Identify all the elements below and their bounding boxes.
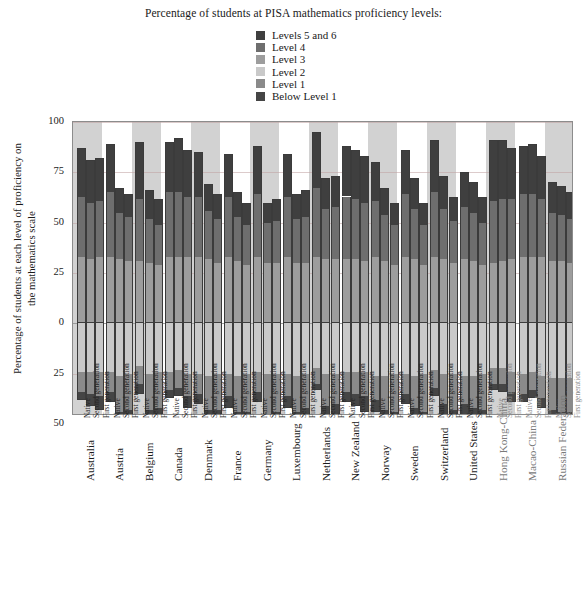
segment-levels-5-6 — [77, 148, 86, 196]
x-axis-sublabel: Native — [319, 398, 328, 418]
segment-levels-5-6 — [253, 146, 262, 194]
segment-level-3 — [106, 257, 115, 323]
legend-swatch — [256, 55, 265, 64]
x-axis-country-label: Belgium — [143, 442, 155, 481]
segment-level-4 — [548, 213, 557, 261]
segment-levels-5-6 — [321, 178, 330, 208]
segment-level-3 — [548, 261, 557, 323]
segment-level-4 — [204, 211, 213, 259]
legend-label: Below Level 1 — [272, 90, 337, 102]
x-axis-sublabel: Native — [378, 398, 387, 418]
segment-level-4 — [410, 209, 419, 259]
legend-title: Percentage of students at PISA mathemati… — [0, 7, 587, 19]
segment-level-3 — [430, 257, 439, 323]
segment-level-2 — [77, 323, 86, 371]
segment-levels-5-6 — [548, 182, 557, 212]
segment-level-3 — [469, 261, 478, 323]
y-axis-title: Percentage of students at each level of … — [11, 139, 38, 379]
segment-levels-5-6 — [557, 186, 566, 214]
segment-level-4 — [557, 215, 566, 261]
x-axis-sublabel: First generation — [190, 371, 199, 418]
segment-level-3 — [194, 257, 203, 323]
x-axis-country-label: Germany — [261, 439, 273, 481]
x-axis-sublabel: First generation — [278, 371, 287, 418]
legend-swatch — [256, 31, 265, 40]
segment-levels-5-6 — [566, 192, 573, 218]
x-axis-sublabel: Second generation — [92, 363, 101, 418]
x-axis-sublabel: Second generation — [534, 363, 543, 418]
x-axis-sublabel: Second generation — [269, 363, 278, 418]
legend-swatch — [256, 79, 265, 88]
x-axis-sublabel: First generation — [544, 371, 553, 418]
x-axis-country-label: Australia — [84, 440, 96, 481]
segment-level-4 — [489, 201, 498, 263]
segment-level-3 — [557, 261, 566, 323]
x-axis-sublabel: Native — [201, 398, 210, 418]
segment-level-4 — [292, 219, 301, 263]
x-axis-sublabel: Second generation — [358, 363, 367, 418]
x-axis-country-label: France — [231, 451, 243, 481]
y-axis-tick-label: 50 — [36, 417, 64, 428]
segment-level-3 — [145, 263, 154, 323]
x-axis-sublabel: Native — [407, 398, 416, 418]
x-axis-sublabel: Second generation — [446, 363, 455, 418]
segment-level-4 — [380, 215, 389, 261]
x-axis-sublabel: First generation — [308, 371, 317, 418]
legend-label: Level 2 — [272, 66, 305, 78]
x-axis-sublabel: First generation — [160, 371, 169, 418]
segment-level-3 — [498, 261, 507, 323]
x-axis-country-label: Sweden — [408, 446, 420, 481]
segment-level-3 — [566, 263, 573, 323]
x-axis-country-label: Denmark — [202, 439, 214, 481]
segment-level-4 — [321, 209, 330, 259]
segment-level-4 — [460, 207, 469, 259]
segment-level-2 — [519, 323, 528, 373]
segment-level-3 — [204, 259, 213, 323]
segment-level-3 — [115, 259, 124, 323]
legend-item: Level 2 — [256, 66, 337, 78]
legend-label: Level 4 — [272, 41, 305, 53]
x-axis-sublabel: First generation — [249, 371, 258, 418]
x-axis-sublabel: Native — [113, 398, 122, 418]
segment-levels-5-6 — [489, 140, 498, 200]
segment-level-4 — [77, 197, 86, 257]
segment-levels-5-6 — [528, 144, 537, 194]
legend: Levels 5 and 6Level 4Level 3Level 2Level… — [256, 29, 337, 102]
segment-level-2 — [253, 323, 262, 371]
segment-levels-5-6 — [165, 142, 174, 192]
x-axis-sublabel: Native — [289, 398, 298, 418]
segment-levels-5-6 — [135, 142, 144, 198]
segment-levels-5-6 — [430, 140, 439, 192]
legend-item: Below Level 1 — [256, 90, 337, 102]
segment-level-2 — [224, 323, 233, 373]
segment-levels-5-6 — [371, 162, 380, 200]
x-axis-country-label: New Zealand — [349, 421, 361, 481]
segment-level-2 — [135, 323, 144, 365]
x-axis-sublabel: First generation — [514, 371, 523, 418]
legend-label: Levels 5 and 6 — [272, 29, 336, 41]
x-axis-country-label: Switzerland — [438, 428, 450, 481]
segment-level-4 — [135, 199, 144, 261]
segment-level-4 — [253, 194, 262, 256]
x-axis-country-label: Austria — [113, 448, 125, 481]
segment-level-4 — [469, 213, 478, 261]
x-axis-sublabel: Second generation — [210, 363, 219, 418]
x-axis-sublabel: Native — [172, 398, 181, 418]
segment-levels-5-6 — [263, 203, 272, 223]
x-axis-country-label: Luxembourg — [290, 423, 302, 481]
segment-levels-5-6 — [174, 138, 183, 192]
legend-item: Level 4 — [256, 41, 337, 53]
segment-levels-5-6 — [380, 188, 389, 214]
segment-level-3 — [233, 261, 242, 323]
segment-level-3 — [135, 261, 144, 323]
x-axis-sublabel: First generation — [219, 371, 228, 418]
segment-levels-5-6 — [469, 182, 478, 212]
segment-level-2 — [312, 323, 321, 367]
segment-level-3 — [292, 263, 301, 323]
segment-level-3 — [380, 261, 389, 323]
x-axis-sublabel: Native — [142, 398, 151, 418]
x-axis-country-label: Norway — [379, 445, 391, 481]
x-axis-sublabel: Native — [525, 398, 534, 418]
x-axis-country-label: Russian Federation — [556, 395, 568, 481]
segment-level-2 — [548, 323, 557, 377]
